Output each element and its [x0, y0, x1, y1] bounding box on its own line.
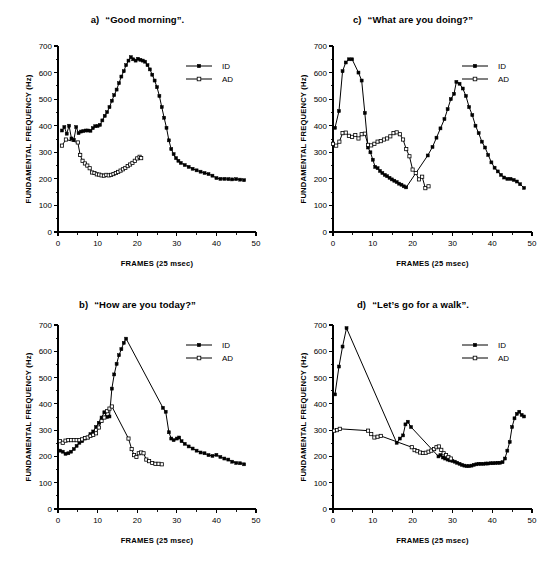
series-id: [60, 56, 245, 182]
series-ad: [331, 131, 430, 190]
legend-label-id: ID: [222, 62, 230, 71]
data-point-id: [172, 439, 175, 442]
data-point-id: [122, 70, 125, 73]
data-point-id: [151, 73, 154, 76]
data-point-ad: [366, 143, 369, 146]
data-point-ad: [103, 416, 106, 419]
data-point-id: [337, 110, 340, 113]
data-point-id: [223, 457, 226, 460]
data-point-id: [127, 59, 130, 62]
data-point-id: [215, 177, 218, 180]
data-point-id: [443, 118, 446, 121]
y-tick-label: 500: [314, 95, 328, 104]
data-point-ad: [97, 426, 100, 429]
legend-marker-id: [473, 64, 476, 67]
data-point-ad: [335, 144, 338, 147]
data-point-id: [211, 454, 214, 457]
data-point-id: [103, 114, 106, 117]
legend-entry-ad: AD: [186, 75, 233, 84]
legend-marker-ad: [473, 356, 477, 360]
data-point-ad: [382, 138, 385, 141]
series-id: [333, 327, 525, 468]
data-point-id: [156, 86, 159, 89]
data-point-ad: [354, 133, 357, 136]
data-point-id: [506, 177, 509, 180]
data-point-ad: [366, 429, 369, 432]
panel-c: c)“What are you doing?” 0100200300400500…: [275, 0, 551, 285]
data-point-ad: [147, 460, 150, 463]
data-point-ad: [142, 452, 145, 455]
legend-entry-ad: AD: [462, 354, 509, 363]
data-point-id: [405, 186, 408, 189]
data-point-id: [219, 177, 222, 180]
data-point-ad: [373, 436, 376, 439]
data-point-id: [120, 348, 123, 351]
data-point-ad: [440, 448, 443, 451]
data-point-id: [458, 82, 461, 85]
data-point-ad: [100, 419, 103, 422]
data-point-ad: [130, 447, 133, 450]
data-point-id: [110, 387, 113, 390]
data-point-id: [243, 179, 246, 182]
series-line-ad: [62, 140, 141, 176]
x-tick-label: 50: [528, 239, 537, 248]
data-point-id: [509, 177, 512, 180]
data-point-id: [243, 463, 246, 466]
data-point-id: [203, 172, 206, 175]
data-point-id: [115, 88, 118, 91]
y-tick-label: 0: [48, 505, 53, 514]
y-tick-label: 0: [323, 505, 328, 514]
data-point-id: [161, 406, 164, 409]
y-tick-label: 200: [39, 452, 53, 461]
x-tick-label: 40: [212, 516, 221, 525]
y-tick-label: 0: [323, 228, 328, 237]
x-tick-label: 30: [172, 516, 181, 525]
data-point-ad: [392, 132, 395, 135]
data-point-id: [461, 87, 464, 90]
data-point-id: [484, 146, 487, 149]
y-tick-label: 600: [314, 347, 328, 356]
data-point-ad: [338, 427, 341, 430]
data-point-ad: [411, 168, 414, 171]
data-point-id: [426, 154, 429, 157]
data-point-id: [187, 165, 190, 168]
data-point-ad: [417, 178, 420, 181]
data-point-id: [183, 442, 186, 445]
y-tick-label: 100: [314, 201, 328, 210]
panel-b: b)“How are you today?” 01002003004005006…: [0, 285, 275, 561]
data-point-id: [490, 161, 493, 164]
data-point-id: [357, 71, 360, 74]
data-point-id: [106, 111, 109, 114]
y-tick-label: 100: [314, 479, 328, 488]
legend-entry-ad: AD: [462, 75, 509, 84]
data-point-ad: [395, 131, 398, 134]
panel-d-plot: 010020030040050060070001020304050FRAMES …: [275, 285, 551, 561]
data-point-id: [108, 415, 111, 418]
data-point-id: [235, 178, 238, 181]
y-tick-label: 700: [39, 321, 53, 330]
data-point-ad: [88, 167, 91, 170]
data-point-id: [183, 164, 186, 167]
y-tick-label: 300: [314, 148, 328, 157]
data-point-id: [98, 123, 101, 126]
data-point-id: [493, 166, 496, 169]
data-point-id: [363, 111, 366, 114]
y-tick-label: 600: [314, 69, 328, 78]
data-point-ad: [60, 144, 63, 147]
data-point-id: [506, 449, 509, 452]
legend-label-id: ID: [222, 341, 230, 350]
data-point-id: [113, 94, 116, 97]
data-point-id: [178, 436, 181, 439]
y-tick-label: 500: [39, 374, 53, 383]
data-point-id: [503, 176, 506, 179]
y-axis-title: FUNDAMENTAL FREQUENCY (Hz): [299, 352, 308, 481]
data-point-ad: [344, 131, 347, 134]
data-point-id: [398, 437, 401, 440]
data-point-ad: [424, 187, 427, 190]
data-point-ad: [357, 137, 360, 140]
x-tick-label: 50: [252, 516, 261, 525]
data-point-id: [195, 169, 198, 172]
data-point-id: [158, 94, 161, 97]
data-point-id: [452, 92, 455, 95]
data-point-id: [115, 362, 118, 365]
